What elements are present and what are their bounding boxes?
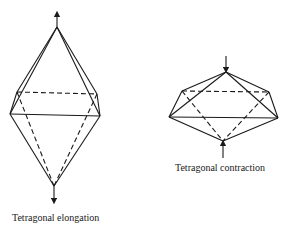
caption-contraction: Tetragonal contraction	[175, 162, 265, 173]
contracted-octahedron	[169, 56, 278, 158]
caption-elongation: Tetragonal elongation	[12, 212, 99, 223]
diagram-canvas	[0, 0, 288, 228]
elongated-octahedron	[10, 14, 100, 201]
